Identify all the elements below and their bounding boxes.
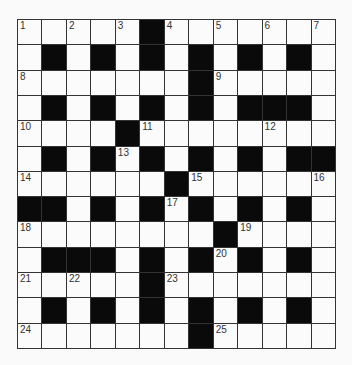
grid-cell[interactable] [67, 172, 90, 196]
grid-cell[interactable] [189, 222, 212, 246]
grid-cell[interactable] [67, 324, 90, 348]
grid-cell[interactable] [238, 172, 261, 196]
grid-cell[interactable] [165, 121, 188, 145]
grid-cell[interactable] [214, 147, 237, 171]
grid-cell[interactable] [263, 248, 286, 272]
grid-cell[interactable] [116, 45, 139, 69]
grid-cell[interactable] [238, 273, 261, 297]
grid-cell[interactable]: 14 [18, 172, 41, 196]
grid-cell[interactable] [91, 222, 114, 246]
grid-cell[interactable]: 7 [312, 20, 335, 44]
grid-cell[interactable] [18, 45, 41, 69]
grid-cell[interactable] [116, 96, 139, 120]
grid-cell[interactable] [263, 45, 286, 69]
grid-cell[interactable] [263, 197, 286, 221]
grid-cell[interactable] [189, 273, 212, 297]
grid-cell[interactable] [214, 197, 237, 221]
grid-cell[interactable]: 15 [189, 172, 212, 196]
grid-cell[interactable] [312, 273, 335, 297]
grid-cell[interactable] [42, 222, 65, 246]
grid-cell[interactable] [312, 222, 335, 246]
grid-cell[interactable] [287, 71, 310, 95]
grid-cell[interactable]: 8 [18, 71, 41, 95]
grid-cell[interactable] [287, 273, 310, 297]
grid-cell[interactable] [140, 222, 163, 246]
grid-cell[interactable] [42, 20, 65, 44]
grid-cell[interactable] [312, 96, 335, 120]
grid-cell[interactable] [214, 45, 237, 69]
grid-cell[interactable] [165, 96, 188, 120]
grid-cell[interactable] [116, 273, 139, 297]
grid-cell[interactable] [67, 197, 90, 221]
grid-cell[interactable] [67, 45, 90, 69]
grid-cell[interactable] [67, 121, 90, 145]
grid-cell[interactable] [214, 298, 237, 322]
grid-cell[interactable] [165, 147, 188, 171]
grid-cell[interactable] [312, 248, 335, 272]
grid-cell[interactable] [312, 71, 335, 95]
grid-cell[interactable] [42, 324, 65, 348]
grid-cell[interactable]: 13 [116, 147, 139, 171]
grid-cell[interactable] [238, 71, 261, 95]
grid-cell[interactable] [67, 147, 90, 171]
grid-cell[interactable]: 3 [116, 20, 139, 44]
grid-cell[interactable] [140, 324, 163, 348]
grid-cell[interactable] [42, 121, 65, 145]
grid-cell[interactable] [287, 121, 310, 145]
grid-cell[interactable] [42, 273, 65, 297]
grid-cell[interactable] [91, 324, 114, 348]
grid-cell[interactable] [287, 172, 310, 196]
grid-cell[interactable] [18, 147, 41, 171]
grid-cell[interactable] [312, 298, 335, 322]
grid-cell[interactable]: 20 [214, 248, 237, 272]
grid-cell[interactable] [165, 324, 188, 348]
grid-cell[interactable] [42, 172, 65, 196]
grid-cell[interactable] [116, 298, 139, 322]
grid-cell[interactable] [116, 197, 139, 221]
grid-cell[interactable] [214, 96, 237, 120]
grid-cell[interactable] [263, 273, 286, 297]
grid-cell[interactable] [18, 248, 41, 272]
grid-cell[interactable] [116, 324, 139, 348]
grid-cell[interactable]: 22 [67, 273, 90, 297]
grid-cell[interactable] [140, 71, 163, 95]
grid-cell[interactable] [42, 71, 65, 95]
grid-cell[interactable] [67, 222, 90, 246]
grid-cell[interactable] [189, 20, 212, 44]
grid-cell[interactable]: 21 [18, 273, 41, 297]
grid-cell[interactable] [165, 45, 188, 69]
grid-cell[interactable]: 24 [18, 324, 41, 348]
grid-cell[interactable]: 25 [214, 324, 237, 348]
grid-cell[interactable] [238, 121, 261, 145]
grid-cell[interactable]: 2 [67, 20, 90, 44]
grid-cell[interactable] [67, 298, 90, 322]
grid-cell[interactable] [263, 172, 286, 196]
grid-cell[interactable] [287, 324, 310, 348]
grid-cell[interactable]: 19 [238, 222, 261, 246]
grid-cell[interactable] [214, 121, 237, 145]
grid-cell[interactable] [214, 273, 237, 297]
grid-cell[interactable] [91, 71, 114, 95]
grid-cell[interactable]: 12 [263, 121, 286, 145]
grid-cell[interactable] [165, 248, 188, 272]
grid-cell[interactable] [116, 248, 139, 272]
grid-cell[interactable] [67, 96, 90, 120]
grid-cell[interactable] [287, 20, 310, 44]
grid-cell[interactable]: 10 [18, 121, 41, 145]
grid-cell[interactable]: 9 [214, 71, 237, 95]
grid-cell[interactable] [165, 298, 188, 322]
grid-cell[interactable]: 11 [140, 121, 163, 145]
grid-cell[interactable] [189, 121, 212, 145]
grid-cell[interactable] [312, 324, 335, 348]
grid-cell[interactable]: 23 [165, 273, 188, 297]
grid-cell[interactable] [140, 172, 163, 196]
grid-cell[interactable]: 16 [312, 172, 335, 196]
grid-cell[interactable] [238, 324, 261, 348]
grid-cell[interactable] [312, 197, 335, 221]
grid-cell[interactable] [116, 172, 139, 196]
grid-cell[interactable] [214, 172, 237, 196]
grid-cell[interactable] [238, 20, 261, 44]
grid-cell[interactable] [91, 172, 114, 196]
grid-cell[interactable] [287, 222, 310, 246]
grid-cell[interactable] [165, 222, 188, 246]
